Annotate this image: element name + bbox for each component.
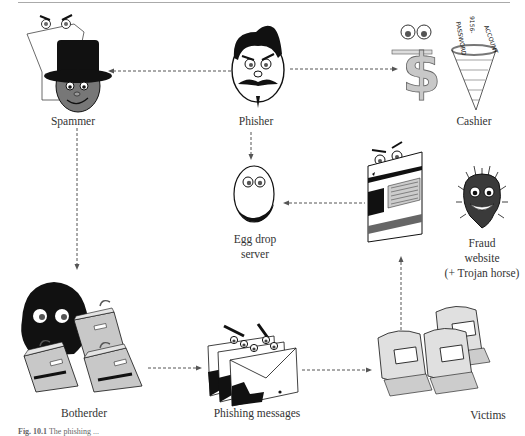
figure-caption: Fig. 10.1 The phishing ...: [18, 427, 99, 436]
computer-left: [378, 331, 432, 396]
egg-icon: [230, 162, 280, 224]
fraud-website-label-line1: Fraud: [440, 236, 524, 251]
botherder-icon: [14, 280, 144, 392]
computers-icon: [372, 302, 502, 402]
phisher-icon: [222, 22, 302, 114]
spammer-figure: [22, 12, 112, 102]
spammer-icon: [22, 12, 112, 102]
envelopes-icon: [204, 322, 304, 402]
victims-figure: [372, 302, 502, 402]
net-text-password: PASSWORD: [455, 21, 468, 56]
arrow-phisher-to-cashier: [290, 66, 398, 72]
cashier-icon: $ PASSWORD 9156- ACCOUNT: [392, 14, 502, 114]
egg-drop-label-line2: server: [220, 247, 290, 262]
phishing-messages-label: Phishing messages: [202, 406, 312, 421]
cashier-figure: $ PASSWORD 9156- ACCOUNT: [392, 14, 502, 114]
net-text-account: ACCOUNT: [483, 24, 500, 55]
fraud-website-figure: [366, 142, 426, 242]
egg-drop-figure: [230, 162, 280, 224]
phisher-label: Phisher: [226, 114, 286, 129]
arrow-messages-to-victims: [302, 367, 372, 373]
caption-text: The phishing ...: [49, 427, 99, 436]
caption-label: Fig. 10.1: [18, 427, 47, 436]
arrow-phisher-to-egg: [248, 132, 254, 160]
arrow-botherder-to-messages: [148, 365, 202, 371]
botherder-label: Botherder: [44, 406, 124, 421]
egg-drop-label: Egg drop server: [220, 232, 290, 262]
cashier-label: Cashier: [444, 114, 504, 129]
web-page-icon: [366, 142, 426, 242]
fraud-website-label-line2: website: [440, 251, 524, 266]
top-rule: [18, 2, 510, 3]
fraud-website-label-line3: (+ Trojan horse): [440, 266, 524, 281]
arrow-spammer-to-botherder: [74, 128, 80, 270]
arrow-fraud-to-egg: [283, 200, 365, 206]
trojan-virus-figure: [456, 164, 508, 234]
botherder-figure: [14, 280, 144, 392]
victims-label: Victims: [460, 408, 516, 423]
phishing-messages-figure: [204, 322, 304, 402]
spammer-label: Spammer: [38, 114, 108, 129]
egg-drop-label-line1: Egg drop: [220, 232, 290, 247]
arrow-phisher-to-spammer: [108, 68, 238, 74]
phisher-figure: [222, 22, 302, 114]
svg-text:$: $: [402, 40, 441, 105]
net-text-number: 9156-: [469, 16, 476, 33]
fraud-website-label: Fraud website (+ Trojan horse): [440, 236, 524, 281]
virus-icon: [456, 164, 508, 234]
